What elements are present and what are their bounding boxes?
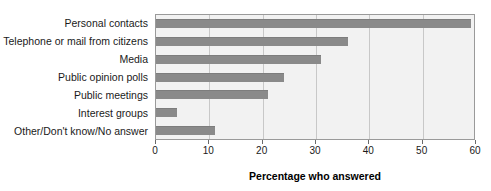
- bar-row: [156, 68, 474, 86]
- bar-row: [156, 104, 474, 122]
- tick-label: 50: [416, 145, 427, 156]
- tick-mark: [262, 140, 263, 144]
- category-label: Media: [0, 50, 152, 68]
- category-label: Public opinion polls: [0, 68, 152, 86]
- value-axis: 0102030405060: [155, 140, 475, 162]
- tick-mark: [422, 140, 423, 144]
- tick-mark: [155, 140, 156, 144]
- bar-row: [156, 15, 474, 33]
- tick-label: 10: [203, 145, 214, 156]
- axis-title: Percentage who answered: [155, 170, 475, 182]
- bar-row: [156, 50, 474, 68]
- category-label: Public meetings: [0, 86, 152, 104]
- tick-label: 40: [363, 145, 374, 156]
- bar: [156, 55, 321, 64]
- category-axis: Personal contacts Telephone or mail from…: [0, 14, 152, 140]
- category-label: Telephone or mail from citizens: [0, 32, 152, 50]
- bar-chart: Personal contacts Telephone or mail from…: [0, 0, 491, 191]
- bar-row: [156, 121, 474, 139]
- bar: [156, 19, 471, 28]
- tick-label: 30: [309, 145, 320, 156]
- bar: [156, 126, 215, 135]
- tick-mark: [475, 140, 476, 144]
- bar-series: [156, 15, 474, 139]
- bar-row: [156, 33, 474, 51]
- bar: [156, 37, 348, 46]
- tick-label: 60: [469, 145, 480, 156]
- tick-mark: [368, 140, 369, 144]
- tick-label: 20: [256, 145, 267, 156]
- bar: [156, 90, 268, 99]
- category-label: Interest groups: [0, 104, 152, 122]
- bar-row: [156, 86, 474, 104]
- tick-label: 0: [152, 145, 158, 156]
- bar: [156, 73, 284, 82]
- category-label: Other/Don't know/No answer: [0, 122, 152, 140]
- tick-mark: [208, 140, 209, 144]
- category-label: Personal contacts: [0, 14, 152, 32]
- tick-mark: [315, 140, 316, 144]
- bar: [156, 108, 177, 117]
- plot-area: [155, 14, 475, 140]
